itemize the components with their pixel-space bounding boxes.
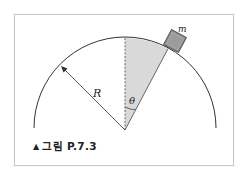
caption-text: 그림 P.7.3 bbox=[42, 140, 96, 152]
figure-caption: ▲그림 P.7.3 bbox=[33, 138, 97, 153]
mass-label: m bbox=[178, 24, 187, 34]
angle-label: θ bbox=[129, 95, 135, 106]
angle-wedge bbox=[125, 38, 168, 130]
triangle-marker-icon: ▲ bbox=[33, 142, 39, 151]
radius-label: R bbox=[92, 87, 101, 100]
